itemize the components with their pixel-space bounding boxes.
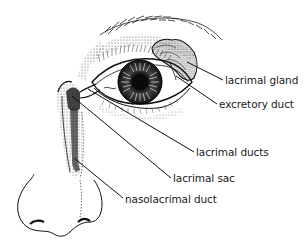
- lacrimal-sac-shape: [66, 88, 80, 112]
- label-nasolacrimal-duct: nasolacrimal duct: [125, 193, 217, 205]
- iris: [118, 60, 162, 104]
- cheek-shading: [98, 104, 185, 121]
- label-lacrimal-sac: lacrimal sac: [173, 172, 235, 184]
- label-lacrimal-gland: lacrimal gland: [225, 74, 298, 86]
- eyebrow: [100, 16, 222, 40]
- label-excretory-duct: excretory duct: [219, 98, 294, 110]
- pupil: [132, 74, 148, 90]
- label-lacrimal-ducts: lacrimal ducts: [196, 146, 269, 158]
- nose: [18, 174, 102, 236]
